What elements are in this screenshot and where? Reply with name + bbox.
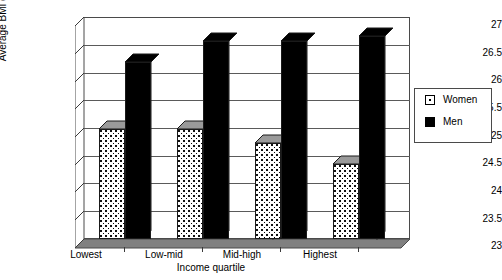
bmi-income-bar-chart: Average BMI (kg/m2) 27 26.5 26 25.5 25 2…	[0, 0, 502, 280]
bar-men-mid-high	[281, 41, 307, 239]
x-axis-title-text: Income quartile	[177, 262, 245, 273]
y-axis-title: Average BMI (kg/m2)	[0, 0, 8, 80]
men-swatch-icon	[425, 117, 435, 127]
x-category-label-mid-high: Mid-high	[202, 249, 282, 260]
y-tick-label-24: 24	[474, 186, 502, 196]
bar-women-lowest	[99, 129, 125, 239]
plot-floor	[75, 239, 410, 248]
bar-front-face	[255, 143, 281, 239]
bar-men-highest	[359, 36, 385, 239]
x-category-label-highest: Highest	[280, 249, 360, 260]
bar-women-mid-high	[255, 143, 281, 239]
x-category-label-low-mid: Low-mid	[124, 249, 204, 260]
women-swatch-icon	[425, 95, 435, 105]
bar-front-face	[359, 36, 385, 239]
bar-women-low-mid	[177, 129, 203, 239]
legend-label-women: Women	[443, 95, 477, 105]
bar-men-low-mid	[203, 41, 229, 239]
y-tick-label-24-5: 24.5	[474, 158, 502, 168]
bar-top-face	[125, 54, 151, 62]
bar-top-face	[281, 33, 307, 41]
bar-front-face	[203, 41, 229, 239]
y-tick-label-26-5: 26.5	[474, 48, 502, 58]
y-tick-23-5	[75, 211, 84, 220]
bar-front-face	[333, 164, 359, 239]
y-tick-label-27: 27	[474, 20, 502, 30]
y-tick-label-23-5: 23.5	[474, 214, 502, 224]
x-axis-title: Income quartile	[0, 262, 502, 273]
bar-top-face	[99, 121, 125, 129]
y-tick-26	[75, 73, 84, 82]
y-tick-26-5	[75, 45, 84, 54]
bar-top-face	[359, 28, 385, 36]
y-tick-label-26: 26	[474, 75, 502, 85]
bar-top-face	[177, 121, 203, 129]
bar-top-face	[333, 156, 359, 164]
y-tick-24-5	[75, 156, 84, 165]
y-tick-24	[75, 183, 84, 192]
bar-top-face	[203, 33, 229, 41]
plot-area	[75, 25, 410, 247]
bar-women-highest	[333, 164, 359, 239]
bar-men-lowest	[125, 62, 151, 239]
legend-item-women: Women	[415, 89, 491, 111]
y-tick-27	[75, 17, 84, 26]
bar-front-face	[125, 62, 151, 239]
y-tick-label-23: 23	[474, 241, 502, 251]
bar-top-face	[255, 135, 281, 143]
legend-label-men: Men	[443, 117, 462, 127]
y-tick-25	[75, 128, 84, 137]
legend: Women Men	[414, 88, 492, 143]
bar-front-face	[281, 41, 307, 239]
legend-item-men: Men	[415, 111, 491, 133]
bar-front-face	[177, 129, 203, 239]
x-category-label-lowest: Lowest	[46, 249, 126, 260]
y-tick-25-5	[75, 100, 84, 109]
y-tick-23	[75, 239, 84, 248]
bar-front-face	[99, 129, 125, 239]
